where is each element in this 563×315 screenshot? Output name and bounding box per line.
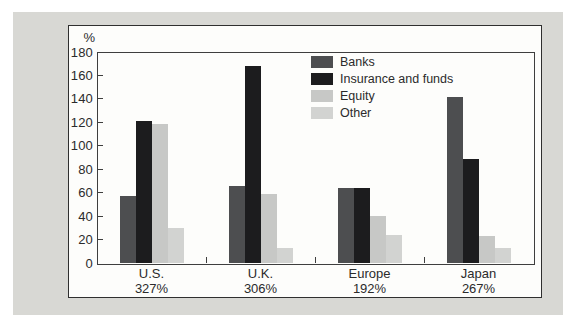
legend-label: Banks [333,56,375,68]
y-axis-tick [98,216,103,217]
category-total: 267% [424,282,534,297]
category-name: U.K. [206,267,316,282]
legend-label: Insurance and funds [333,73,453,85]
chart-legend: BanksInsurance and fundsEquityOther [311,56,453,124]
bar-insurance-and-funds-u-s [136,121,152,263]
y-axis-tick-label: 180 [53,45,93,60]
legend-swatch-equity [311,90,333,102]
y-axis-unit-label: % [55,30,95,45]
x-axis-tick [424,257,425,263]
y-axis-tick-label: 160 [53,68,93,83]
y-axis-tick [98,169,103,170]
bar-other-europe [386,235,402,263]
legend-label: Other [333,107,371,119]
legend-item-other: Other [311,107,453,119]
bar-insurance-and-funds-europe [354,188,370,263]
y-axis-tick-label: 140 [53,91,93,106]
legend-swatch-banks [311,56,333,68]
bar-other-japan [495,248,511,263]
x-axis-category-label-u-s: U.S.327% [97,267,207,296]
bar-insurance-and-funds-japan [463,159,479,263]
bar-banks-europe [338,188,354,263]
y-axis-tick-label: 80 [53,162,93,177]
bar-insurance-and-funds-u-k [245,66,261,263]
legend-item-equity: Equity [311,90,453,102]
legend-swatch-insurance-and-funds [311,73,333,85]
x-axis-tick [206,257,207,263]
y-axis-tick-label: 100 [53,138,93,153]
y-axis-tick-label: 120 [53,115,93,130]
bar-banks-u-k [229,186,245,263]
legend-item-insurance-and-funds: Insurance and funds [311,73,453,85]
y-axis-tick [98,239,103,240]
category-total: 192% [315,282,425,297]
legend-swatch-other [311,107,333,119]
x-axis-category-label-u-k: U.K.306% [206,267,316,296]
y-axis-tick [98,145,103,146]
legend-label: Equity [333,90,375,102]
y-axis-tick-label: 20 [53,232,93,247]
legend-item-banks: Banks [311,56,453,68]
bar-banks-u-s [120,196,136,263]
bar-equity-u-k [261,194,277,263]
category-name: Europe [315,267,425,282]
bar-other-u-k [277,248,293,263]
x-axis-category-label-japan: Japan267% [424,267,534,296]
y-axis-tick [98,192,103,193]
y-axis-tick [98,122,103,123]
category-total: 306% [206,282,316,297]
y-axis-tick-label: 60 [53,185,93,200]
category-total: 327% [97,282,207,297]
category-name: U.S. [97,267,207,282]
bar-equity-u-s [152,124,168,263]
bar-equity-japan [479,236,495,263]
y-axis-tick-label: 40 [53,209,93,224]
y-axis-tick [98,75,103,76]
category-name: Japan [424,267,534,282]
figure: % BanksInsurance and fundsEquityOther 18… [0,0,563,315]
x-axis-category-label-europe: Europe192% [315,267,425,296]
y-axis-tick-label: 0 [53,256,93,271]
bar-banks-japan [447,97,463,263]
y-axis-tick [98,98,103,99]
bar-equity-europe [370,216,386,263]
bar-other-u-s [168,228,184,263]
x-axis-tick [315,257,316,263]
